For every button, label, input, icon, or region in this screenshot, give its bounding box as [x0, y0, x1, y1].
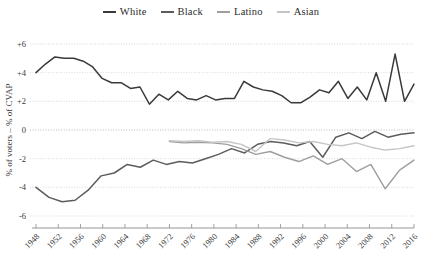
- y-axis-tick-label: +2: [17, 96, 26, 106]
- x-axis-tick-label: 1972: [156, 231, 175, 250]
- x-axis-tick-label: 2016: [400, 231, 419, 250]
- y-axis-title: % of voters – % of CVAP: [4, 84, 14, 177]
- x-axis-tick-label: 1992: [267, 231, 286, 250]
- x-axis-tick-label: 2012: [378, 231, 397, 250]
- x-axis-tick-label: 1964: [111, 231, 131, 251]
- x-axis-tick-label: 1968: [133, 231, 152, 250]
- y-axis-tick-label: -6: [19, 211, 26, 221]
- y-axis-tick-label: -2: [19, 154, 26, 164]
- series-line-white: [36, 54, 414, 104]
- x-axis-tick-label: 1984: [222, 231, 242, 251]
- x-axis-tick-label: 1952: [45, 231, 64, 250]
- x-axis-tick-label: 1956: [67, 231, 86, 250]
- data-series: [36, 54, 414, 202]
- x-axis-tick-label: 1980: [200, 231, 219, 250]
- x-axis-tick-label: 1960: [89, 231, 108, 250]
- chart-plot-area: +6+4+20-2-4-6 19481952195619601964196819…: [0, 0, 422, 261]
- x-axis-tick-label: 1988: [245, 231, 264, 250]
- turnout-gap-chart: WhiteBlackLatinoAsian +6+4+20-2-4-6 1948…: [0, 0, 422, 261]
- x-axis: 1948195219561960196419681972197619801984…: [22, 224, 419, 250]
- axis-titles: % of voters – % of CVAP: [4, 84, 14, 177]
- y-axis-tick-label: -4: [19, 182, 27, 192]
- x-axis-tick-label: 1976: [178, 231, 197, 250]
- y-axis-ticks: +6+4+20-2-4-6: [17, 39, 27, 221]
- y-axis-tick-label: +4: [17, 68, 27, 78]
- y-axis-tick-label: +6: [17, 39, 26, 49]
- x-axis-tick-label: 2000: [311, 231, 330, 250]
- x-axis-tick-label: 1948: [22, 231, 41, 250]
- x-axis-tick-label: 1996: [289, 231, 308, 250]
- x-axis-tick-label: 2008: [356, 231, 375, 250]
- x-axis-tick-label: 2004: [334, 231, 354, 251]
- y-axis-tick-label: 0: [22, 125, 26, 135]
